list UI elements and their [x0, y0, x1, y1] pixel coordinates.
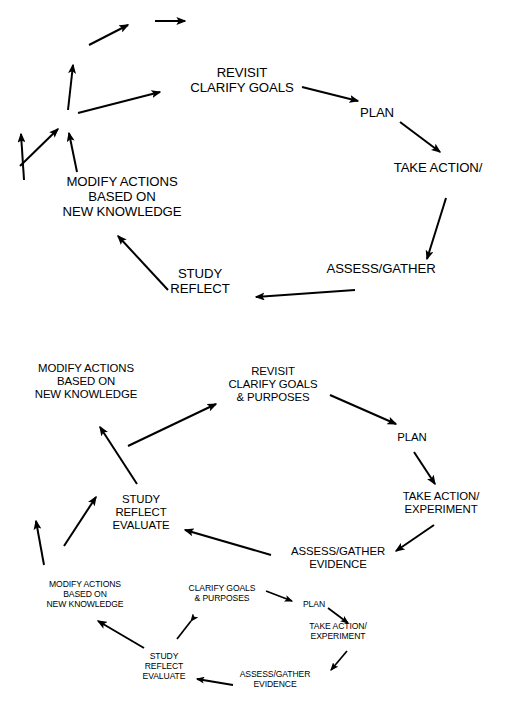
inner-node-modify-actions: MODIFY ACTIONS BASED ON NEW KNOWLEDGE: [46, 580, 123, 610]
middle-node-clarify-goals: REVISIT CLARIFY GOALS & PURPOSES: [228, 365, 317, 404]
label-line: TAKE ACTION/: [403, 490, 479, 503]
arrow-middle-action-to-assess: [396, 525, 434, 551]
arrow-outer-modify-up: [69, 133, 77, 172]
arrow-middle-assess-to-study: [185, 530, 271, 555]
arrow-inner-action-to-assess: [331, 651, 347, 670]
outer-node-plan: PLAN: [360, 105, 394, 120]
arrow-outer-plan-to-action: [400, 122, 440, 152]
label-line: ASSESS/GATHER: [291, 545, 385, 558]
middle-node-modify-actions: MODIFY ACTIONS BASED ON NEW KNOWLEDGE: [35, 362, 138, 401]
arrow-middle-clarify-to-plan: [330, 395, 396, 424]
label-line: BASED ON: [63, 189, 182, 204]
label-line: REVISIT: [190, 65, 293, 80]
arrow-inner-study-to-clarify: [177, 621, 191, 639]
arrow-middle-study-to-modify: [100, 427, 137, 484]
label-line: MODIFY ACTIONS: [35, 362, 138, 375]
arrow-inner-study-to-modify: [98, 621, 144, 648]
label-line: STUDY: [170, 266, 229, 281]
label-line: EVALUATE: [143, 672, 186, 682]
middle-node-plan: PLAN: [397, 431, 426, 444]
label-line: & PURPOSES: [189, 594, 256, 604]
label-line: EXPERIMENT: [403, 503, 479, 516]
outer-node-assess-gather: ASSESS/GATHER: [326, 261, 435, 276]
label-line: PLAN: [360, 105, 394, 120]
action-research-spiral-diagram: REVISIT CLARIFY GOALS PLAN TAKE ACTION/ …: [0, 0, 517, 715]
arrow-inner-modify-to-middle-study: [64, 497, 96, 546]
label-line: EVIDENCE: [240, 680, 311, 690]
label-line: ASSESS/GATHER: [326, 261, 435, 276]
arrow-outer-clarify-to-plan: [302, 87, 358, 101]
arrow-inner-assess-to-study: [197, 679, 233, 685]
arrow-continuation-diagonal: [89, 25, 128, 45]
arrow-outer-study-to-modify: [118, 236, 168, 290]
label-line: EXPERIMENT: [309, 632, 366, 642]
arrow-outer-modify-to-clarify: [78, 92, 160, 113]
arrow-outer-assess-to-study: [256, 290, 355, 297]
label-line: CLARIFY GOALS: [190, 80, 293, 95]
middle-cycle-arrows: [36, 395, 435, 565]
arrow-middle-plan-to-action: [414, 452, 435, 484]
inner-node-study-reflect-evaluate: STUDY REFLECT EVALUATE: [143, 652, 186, 682]
label-line: & PURPOSES: [228, 392, 317, 405]
inner-node-assess-gather: ASSESS/GATHER EVIDENCE: [240, 670, 311, 690]
label-line: EVIDENCE: [291, 558, 385, 571]
arrow-inner-clarify-to-plan: [266, 591, 292, 601]
inner-node-take-action: TAKE ACTION/ EXPERIMENT: [309, 622, 366, 642]
outer-node-take-action: TAKE ACTION/: [394, 160, 483, 175]
label-line: REFLECT: [112, 506, 169, 519]
label-line: NEW KNOWLEDGE: [46, 600, 123, 610]
middle-node-take-action: TAKE ACTION/ EXPERIMENT: [403, 490, 479, 516]
label-line: BASED ON: [35, 375, 138, 388]
label-line: NEW KNOWLEDGE: [35, 389, 138, 402]
inner-node-plan: PLAN: [303, 600, 325, 610]
label-line: TAKE ACTION/: [394, 160, 483, 175]
arrow-outer-up-continuation: [68, 65, 73, 110]
outer-node-clarify-goals: REVISIT CLARIFY GOALS: [190, 65, 293, 95]
arrow-middle-study-to-clarify: [128, 404, 216, 446]
middle-node-study-reflect-evaluate: STUDY REFLECT EVALUATE: [112, 493, 169, 532]
label-line: PLAN: [397, 431, 426, 444]
label-line: REVISIT: [228, 365, 317, 378]
outer-node-modify-actions: MODIFY ACTIONS BASED ON NEW KNOWLEDGE: [63, 174, 182, 220]
label-line: PLAN: [303, 600, 325, 610]
label-line: EVALUATE: [112, 520, 169, 533]
label-line: REFLECT: [170, 281, 229, 296]
label-line: NEW KNOWLEDGE: [63, 205, 182, 220]
middle-node-assess-gather: ASSESS/GATHER EVIDENCE: [291, 545, 385, 571]
label-line: MODIFY ACTIONS: [63, 174, 182, 189]
label-line: STUDY: [112, 493, 169, 506]
arrow-outer-modify-left-diagonal: [20, 129, 58, 166]
label-line: CLARIFY GOALS: [228, 378, 317, 391]
arrow-inner-modify-up: [36, 521, 44, 565]
arrow-outer-left-vertical: [21, 134, 24, 180]
outer-node-study-reflect: STUDY REFLECT: [170, 266, 229, 296]
arrow-outer-action-to-assess: [427, 198, 446, 259]
spiral-continuation-arrows: [89, 21, 185, 45]
inner-node-clarify-goals: CLARIFY GOALS & PURPOSES: [189, 584, 256, 604]
